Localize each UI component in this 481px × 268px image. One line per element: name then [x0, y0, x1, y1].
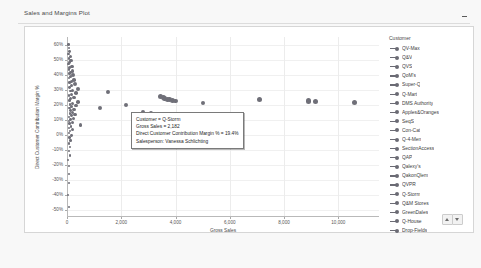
legend-item-label: Apples&Oranges: [402, 110, 439, 115]
legend-item[interactable]: QAP: [387, 153, 465, 162]
scatter-point[interactable]: [68, 142, 70, 144]
legend-marker-icon: [390, 219, 399, 224]
legend-marker-icon: [390, 82, 399, 87]
x-axis-tick-mark: [176, 217, 177, 219]
legend-item[interactable]: Qalexy's: [387, 162, 465, 171]
gridline-horizontal: [67, 75, 379, 76]
legend-item[interactable]: Drop-Fields: [387, 226, 465, 235]
y-axis-tick-label: -20%: [39, 162, 63, 167]
legend-item[interactable]: QakonQlem: [387, 171, 465, 180]
gridline-horizontal: [67, 45, 379, 46]
gridline-vertical: [121, 37, 122, 217]
legend-item[interactable]: Q-Mart: [387, 89, 465, 98]
scatter-point[interactable]: [76, 87, 80, 91]
legend-item-label: Super-Q: [402, 82, 420, 87]
legend-item[interactable]: QVPR: [387, 180, 465, 189]
legend-item[interactable]: Q-Storm: [387, 190, 465, 199]
x-axis-tick-mark: [67, 217, 68, 219]
scatter-point[interactable]: [68, 206, 70, 208]
y-axis-tick-label: 20%: [39, 102, 63, 107]
scatter-point[interactable]: [69, 154, 71, 156]
legend-item[interactable]: SectionAccess: [387, 144, 465, 153]
legend-item-label: QVPR: [402, 182, 416, 187]
scatter-point[interactable]: [69, 139, 72, 142]
minimize-icon[interactable]: [461, 13, 468, 20]
legend-item[interactable]: Q&M Stores: [387, 199, 465, 208]
y-axis-tick-label: 50%: [39, 57, 63, 62]
gridline-horizontal: [67, 210, 379, 211]
x-axis-tick-label: 8,000: [269, 220, 299, 225]
gridline-horizontal: [67, 105, 379, 106]
legend-item-label: Q-4-Men: [402, 137, 421, 142]
tooltip-line-margin: Direct Customer Contribution Margin % = …: [136, 130, 239, 137]
x-axis-title: Gross Sales: [183, 228, 263, 233]
scatter-point[interactable]: [106, 90, 110, 94]
x-axis-tick-label: 10,000: [323, 220, 353, 225]
legend-marker-icon: [390, 146, 399, 151]
legend-item-label: Q&M Stores: [402, 201, 429, 206]
data-point-tooltip: Customer = Q-Storm Gross Sales = 2,182 D…: [131, 112, 244, 149]
legend-marker-icon: [390, 155, 399, 160]
y-axis-tick-label: 60%: [39, 42, 63, 47]
y-axis-tick-label: -30%: [39, 177, 63, 182]
legend-item[interactable]: SeqS: [387, 117, 465, 126]
scatter-point[interactable]: [68, 173, 70, 175]
legend-item-label: Qalexy's: [402, 164, 421, 169]
scatter-point[interactable]: [68, 86, 71, 89]
legend-item-label: QakonQlem: [402, 173, 428, 178]
chart-panel: Sales and Margins Plot 60%50%40%30%20%10…: [0, 0, 481, 268]
gridline-horizontal: [67, 90, 379, 91]
legend-item[interactable]: Con-Cat: [387, 126, 465, 135]
scatter-point[interactable]: [69, 90, 72, 93]
legend-item-label: SectionAccess: [402, 146, 434, 151]
legend-item[interactable]: DMS Authority: [387, 99, 465, 108]
y-axis-tick-label: -50%: [39, 207, 63, 212]
legend-item-label: GreenDales: [402, 210, 428, 215]
legend-marker-icon: [390, 201, 399, 206]
legend-marker-icon: [390, 192, 399, 197]
gridline-vertical: [338, 37, 339, 217]
legend-marker-icon: [390, 173, 399, 178]
legend-item-label: QVS: [402, 64, 412, 69]
legend-item-label: SeqS: [402, 119, 414, 124]
legend-marker-icon: [390, 55, 399, 60]
legend-item[interactable]: Super-Q: [387, 80, 465, 89]
x-axis-tick-label: 6,000: [215, 220, 245, 225]
scatter-point[interactable]: [98, 106, 102, 110]
legend-marker-icon: [390, 92, 399, 97]
gridline-horizontal: [67, 60, 379, 61]
legend-item[interactable]: Q-4-Men: [387, 135, 465, 144]
legend-scrollbar[interactable]: [442, 214, 462, 223]
legend-items-list[interactable]: QV-MaxQ&VQVSQoM'sSuper-QQ-MartDMS Author…: [387, 44, 465, 235]
tooltip-line-salesperson: Salesperson: Vanessa Schlichting: [136, 138, 239, 145]
legend-item-label: Q-House: [402, 219, 422, 224]
scatter-point[interactable]: [68, 182, 70, 184]
legend-marker-icon: [390, 228, 399, 233]
scroll-down-icon[interactable]: [452, 214, 463, 225]
gridline-vertical: [284, 37, 285, 217]
scatter-point[interactable]: [74, 91, 78, 95]
page-title: Sales and Margins Plot: [24, 9, 90, 16]
legend-item[interactable]: Apples&Oranges: [387, 108, 465, 117]
scatter-point[interactable]: [68, 150, 70, 152]
x-axis-tick-label: 2,000: [106, 220, 136, 225]
scatter-point[interactable]: [71, 121, 74, 124]
legend-item[interactable]: QV-Max: [387, 44, 465, 53]
legend-marker-icon: [390, 119, 399, 124]
legend-item[interactable]: QoM's: [387, 71, 465, 80]
y-axis-tick-label: 0%: [39, 132, 63, 137]
legend-marker-icon: [390, 110, 399, 115]
scatter-point[interactable]: [72, 117, 75, 120]
legend-marker-icon: [390, 164, 399, 169]
y-axis-tick-label: 10%: [39, 117, 63, 122]
scatter-point[interactable]: [67, 43, 70, 46]
y-axis-tick-label: 30%: [39, 87, 63, 92]
legend-marker-icon: [390, 101, 399, 106]
legend-item[interactable]: Q&V: [387, 53, 465, 62]
legend-item-label: Q-Storm: [402, 192, 420, 197]
legend-marker-icon: [390, 73, 399, 78]
gridline-horizontal: [67, 180, 379, 181]
scatter-point[interactable]: [68, 99, 71, 102]
x-axis-tick-label: 4,000: [161, 220, 191, 225]
legend-item[interactable]: QVS: [387, 62, 465, 71]
